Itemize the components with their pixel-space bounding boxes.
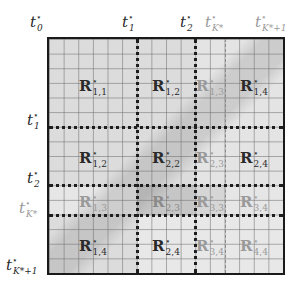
region-label: R⋆3,3 xyxy=(196,195,224,210)
region-label: R⋆1,3 xyxy=(196,79,224,94)
divider-h-t2 xyxy=(49,184,283,187)
region-label: R⋆2,4 xyxy=(152,239,180,254)
region-label: R⋆1,3 xyxy=(79,195,107,210)
top-label-t2: t⋆2 xyxy=(180,15,193,30)
top-label-t0: t⋆0 xyxy=(30,15,43,30)
divider-v-t1 xyxy=(136,39,139,273)
left-label-tK1: t⋆K*+1 xyxy=(6,258,38,273)
left-label-tK: t⋆K* xyxy=(19,201,37,216)
left-label-t1: t⋆1 xyxy=(27,113,40,128)
region-label: R⋆4,4 xyxy=(240,239,268,254)
region-label: R⋆2,3 xyxy=(196,151,224,166)
region-label: R⋆3,4 xyxy=(240,195,268,210)
region-label: R⋆1,4 xyxy=(240,79,268,94)
partition-box: R⋆1,1 R⋆1,2 R⋆1,3 R⋆1,4 R⋆1,2 R⋆2,2 R⋆2,… xyxy=(47,37,285,275)
region-label: R⋆1,2 xyxy=(79,151,107,166)
top-label-tK1: t⋆K*+1 xyxy=(255,15,287,30)
top-label-tK: t⋆K* xyxy=(205,15,223,30)
divider-h-t1 xyxy=(49,126,283,129)
left-label-t2: t⋆2 xyxy=(27,171,40,186)
region-label: R⋆1,4 xyxy=(79,239,107,254)
divider-v-tK xyxy=(225,39,226,273)
divider-h-tK xyxy=(49,214,283,217)
region-label: R⋆2,3 xyxy=(152,195,180,210)
partition-diagram: t⋆0 t⋆1 t⋆2 t⋆K* t⋆K*+1 t⋆1 t⋆2 t⋆K* t⋆K… xyxy=(0,0,301,291)
region-label: R⋆1,1 xyxy=(79,79,107,94)
region-label: R⋆3,4 xyxy=(196,239,224,254)
region-label: R⋆1,2 xyxy=(152,79,180,94)
top-label-t1: t⋆1 xyxy=(122,15,135,30)
region-label: R⋆2,4 xyxy=(240,151,268,166)
region-label: R⋆2,2 xyxy=(152,151,180,166)
